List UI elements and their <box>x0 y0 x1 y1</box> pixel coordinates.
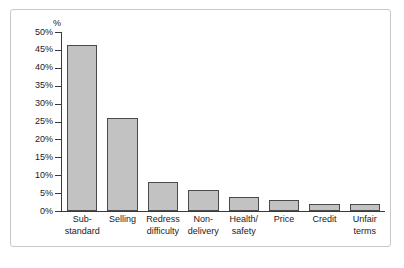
y-axis-tick <box>55 175 62 176</box>
x-axis-category-label-line: Sub- <box>62 214 102 226</box>
bar-slot <box>264 32 304 211</box>
x-axis-category-label: Credit <box>304 214 344 226</box>
x-axis-category-label-line: delivery <box>183 226 223 238</box>
bar-slot <box>143 32 183 211</box>
x-axis-category-label: Unfairterms <box>345 214 385 237</box>
bar-slot <box>183 32 223 211</box>
x-axis-category-label: Sub-standard <box>62 214 102 237</box>
y-axis-tick-label: 20% <box>19 135 53 144</box>
y-axis-tick-label: 10% <box>19 171 53 180</box>
bar[interactable] <box>269 200 299 211</box>
y-axis-tick <box>55 122 62 123</box>
y-axis-tick <box>55 50 62 51</box>
x-axis-category-label-line: Non- <box>183 214 223 226</box>
x-axis-labels: Sub-standardSellingRedressdifficultyNon-… <box>62 214 385 246</box>
x-axis-category-label-line: Selling <box>102 214 142 226</box>
bar[interactable] <box>350 204 380 211</box>
bar-slot <box>102 32 142 211</box>
y-axis-tick-label: 35% <box>19 81 53 90</box>
y-axis-tick-label: 50% <box>19 28 53 37</box>
y-axis-tick <box>55 86 62 87</box>
y-axis-tick <box>55 139 62 140</box>
x-axis-category-label-line: Unfair <box>345 214 385 226</box>
x-axis-category-label-line: difficulty <box>143 226 183 238</box>
x-axis-category-label: Selling <box>102 214 142 226</box>
y-axis-tick-label: 25% <box>19 117 53 126</box>
x-axis-category-label-line: Redress <box>143 214 183 226</box>
x-axis-line <box>61 211 385 212</box>
bar-chart: % 50%45%40%35%30%25%20%15%10%5%0% Sub-st… <box>11 10 390 246</box>
bar-slot <box>224 32 264 211</box>
x-axis-category-label-line: Price <box>264 214 304 226</box>
x-axis-category-label: Redressdifficulty <box>143 214 183 237</box>
y-axis-tick-label: 45% <box>19 45 53 54</box>
y-axis-tick <box>55 104 62 105</box>
x-axis-category-label-line: safety <box>224 226 264 238</box>
chart-figure-frame: % 50%45%40%35%30%25%20%15%10%5%0% Sub-st… <box>10 9 391 247</box>
bar-slot <box>62 32 102 211</box>
y-axis-tick <box>55 193 62 194</box>
x-axis-category-label: Health/safety <box>224 214 264 237</box>
plot-area <box>62 32 385 211</box>
bar[interactable] <box>188 190 218 211</box>
x-axis-category-label-line: terms <box>345 226 385 238</box>
x-axis-category-label: Non-delivery <box>183 214 223 237</box>
y-axis-tick-label: 15% <box>19 153 53 162</box>
y-axis-tick-label: 40% <box>19 63 53 72</box>
x-axis-category-label-line: Credit <box>304 214 344 226</box>
x-axis-category-label-line: Health/ <box>224 214 264 226</box>
y-axis-tick <box>55 32 62 33</box>
y-axis-tick <box>55 211 62 212</box>
bar[interactable] <box>107 118 137 211</box>
bar[interactable] <box>229 197 259 211</box>
bar[interactable] <box>67 45 97 211</box>
bar[interactable] <box>148 182 178 211</box>
y-axis-tick-label: 0% <box>19 207 53 216</box>
y-axis-tick <box>55 68 62 69</box>
bar-slot <box>304 32 344 211</box>
y-axis-tick-label: 5% <box>19 189 53 198</box>
y-axis-tick <box>55 157 62 158</box>
bar[interactable] <box>309 204 339 211</box>
x-axis-category-label: Price <box>264 214 304 226</box>
y-axis-tick-label: 30% <box>19 99 53 108</box>
bar-slot <box>345 32 385 211</box>
x-axis-category-label-line: standard <box>62 226 102 238</box>
